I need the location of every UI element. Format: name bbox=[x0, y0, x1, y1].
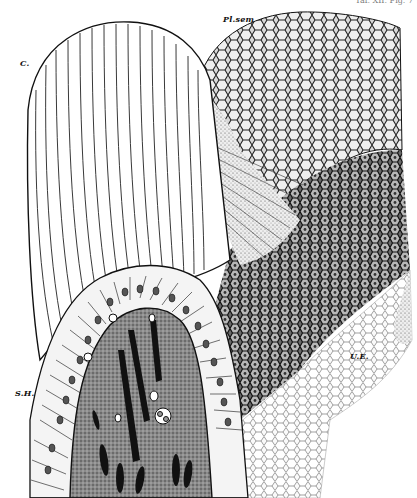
label-ue: U.E. bbox=[350, 351, 369, 361]
label-cupula: C. bbox=[20, 58, 29, 68]
label-plsem: Pl.sem bbox=[223, 14, 254, 24]
label-sh: S.H. bbox=[15, 388, 34, 398]
histology-illustration bbox=[0, 0, 417, 498]
